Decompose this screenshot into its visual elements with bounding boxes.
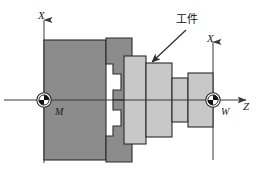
diagram-canvas: X X Z M W 工件 bbox=[0, 0, 262, 181]
axis-z-label: Z bbox=[243, 101, 249, 112]
workpiece-origin-label: W bbox=[221, 107, 229, 117]
workpiece-callout-label: 工件 bbox=[176, 14, 198, 25]
workpiece-callout-leader bbox=[152, 30, 186, 62]
axis-x-right-label: X bbox=[207, 33, 214, 44]
axis-x-left-label: X bbox=[38, 10, 45, 21]
machine-origin-label: M bbox=[55, 107, 63, 117]
machine-origin-marker bbox=[37, 93, 51, 107]
lathe-workpiece-diagram bbox=[0, 0, 262, 181]
workpiece-origin-marker bbox=[206, 93, 220, 107]
